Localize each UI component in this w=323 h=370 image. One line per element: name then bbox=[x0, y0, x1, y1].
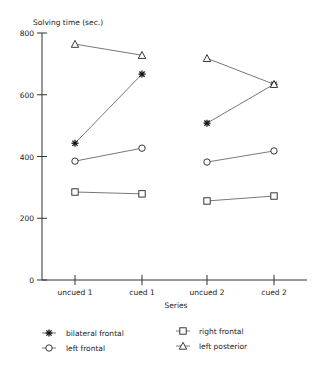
x-tick-label: cued 1 bbox=[129, 288, 155, 297]
y-tick-label: 800 bbox=[20, 29, 35, 38]
y-tick-label: 0 bbox=[29, 276, 34, 285]
legend-label: left frontal bbox=[66, 344, 105, 353]
series-bilateral-frontal bbox=[72, 71, 278, 147]
legend-item-bilateral-frontal: bilateral frontal bbox=[42, 329, 124, 338]
triangle-marker-icon bbox=[203, 55, 210, 62]
legend-item-left-posterior: left posterior bbox=[176, 342, 248, 351]
series-left-frontal bbox=[72, 145, 277, 165]
asterisk-marker-icon bbox=[72, 140, 79, 147]
x-ticks: uncued 1cued 1uncued 2cued 2 bbox=[58, 275, 287, 297]
square-marker-icon bbox=[139, 191, 145, 197]
y-tick-label: 400 bbox=[20, 153, 35, 162]
legend-label: left posterior bbox=[199, 342, 248, 351]
y-tick-label: 200 bbox=[20, 214, 35, 223]
plot-area bbox=[71, 40, 277, 204]
legend: bilateral frontal left frontal right fro… bbox=[42, 327, 248, 353]
asterisk-marker-icon bbox=[46, 330, 53, 337]
legend-label: bilateral frontal bbox=[66, 329, 124, 338]
series-right-frontal bbox=[72, 189, 277, 204]
triangle-marker-icon bbox=[71, 40, 78, 47]
line-chart: Solving time (sec.) 0200400600800 uncued… bbox=[0, 0, 323, 370]
x-axis-label: Series bbox=[164, 301, 187, 310]
asterisk-marker-icon bbox=[139, 71, 146, 78]
x-tick-label: uncued 2 bbox=[190, 288, 225, 297]
circle-marker-icon bbox=[46, 345, 52, 351]
legend-item-left-frontal: left frontal bbox=[42, 344, 105, 353]
legend-label: right frontal bbox=[199, 327, 244, 336]
y-axis-label: Solving time (sec.) bbox=[33, 18, 103, 27]
y-tick-label: 600 bbox=[20, 91, 35, 100]
x-tick-label: cued 2 bbox=[261, 288, 287, 297]
series-left-posterior bbox=[71, 40, 277, 87]
circle-marker-icon bbox=[72, 158, 78, 164]
square-marker-icon bbox=[204, 198, 210, 204]
square-marker-icon bbox=[72, 189, 78, 195]
y-ticks: 0200400600800 bbox=[20, 29, 47, 285]
legend-item-right-frontal: right frontal bbox=[176, 327, 244, 336]
asterisk-marker-icon bbox=[204, 120, 211, 127]
x-tick-label: uncued 1 bbox=[58, 288, 93, 297]
square-marker-icon bbox=[180, 328, 186, 334]
circle-marker-icon bbox=[204, 159, 210, 165]
circle-marker-icon bbox=[271, 148, 277, 154]
circle-marker-icon bbox=[139, 145, 145, 151]
square-marker-icon bbox=[271, 193, 277, 199]
